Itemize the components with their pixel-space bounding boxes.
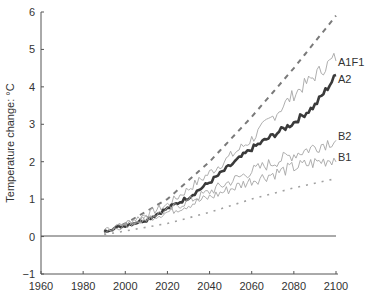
x-tick-label: 2040 (197, 280, 221, 292)
y-tick-label: −1 (22, 268, 35, 280)
series-label-a2: A2 (338, 73, 351, 85)
x-tick-label: 1960 (29, 280, 53, 292)
y-tick-label: 3 (29, 118, 35, 130)
y-axis-title: Temperature change: °C (4, 83, 16, 202)
series-line-lower-envelope-dotted- (104, 179, 336, 235)
series-label-a1f1: A1F1 (338, 56, 364, 68)
series-line-upper-envelope-dashed- (104, 16, 336, 233)
x-tick-label: 2020 (155, 280, 179, 292)
series-lines (104, 16, 336, 235)
y-tick-label: 0 (29, 231, 35, 243)
axes: −10123456 196019802000202020402060208021… (22, 6, 348, 292)
series-line-a2 (104, 75, 336, 231)
x-tick-label: 2060 (239, 280, 263, 292)
y-tick-label: 5 (29, 43, 35, 55)
y-tick-label: 2 (29, 156, 35, 168)
temperature-chart: −10123456 196019802000202020402060208021… (0, 0, 368, 300)
y-tick-label: 4 (29, 81, 35, 93)
y-tick-label: 6 (29, 6, 35, 18)
series-line-b2 (104, 140, 336, 233)
x-tick-label: 2100 (324, 280, 348, 292)
series-line-a1f1 (104, 53, 336, 231)
series-label-b2: B2 (338, 130, 351, 142)
y-tick-label: 1 (29, 193, 35, 205)
x-tick-label: 1980 (71, 280, 95, 292)
series-label-b1: B1 (338, 151, 351, 163)
x-tick-label: 2080 (282, 280, 306, 292)
x-tick-label: 2000 (113, 280, 137, 292)
